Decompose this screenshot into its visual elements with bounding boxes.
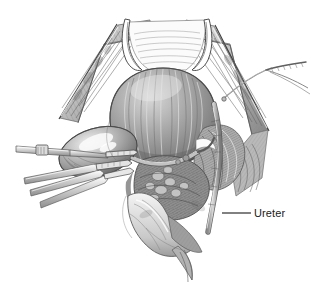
illustration-canvas: [0, 0, 330, 290]
bladder-flap: [122, 19, 212, 71]
surgical-illustration-figure: Ureter: [0, 0, 330, 290]
